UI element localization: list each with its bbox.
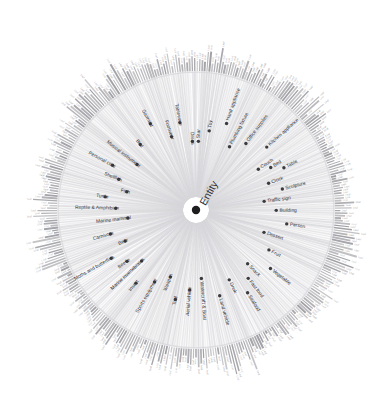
category-node-dot xyxy=(228,278,231,281)
category-node-dot xyxy=(275,209,278,212)
leaf-label: Leaf xyxy=(35,212,40,215)
leaf-label: Leaf xyxy=(190,50,193,55)
category-node-label: Building xyxy=(279,208,297,213)
ring-bar xyxy=(335,220,343,221)
ring-bar xyxy=(189,59,190,72)
category-node-label: Dress xyxy=(190,132,196,146)
category-node-dot xyxy=(197,140,200,143)
leaf-label: Leaf xyxy=(176,51,180,56)
leaf-label: Leaf xyxy=(343,199,348,202)
ring-bar xyxy=(42,197,58,198)
category-node-dot xyxy=(257,168,260,171)
category-node-dot xyxy=(285,222,288,225)
leaf-label: Leaf xyxy=(181,357,184,362)
root-node-dot xyxy=(192,206,200,214)
leaf-label: Leaf xyxy=(344,220,349,223)
ring-bar xyxy=(51,225,58,226)
leaf-label: Leaf xyxy=(41,207,46,210)
leaf-label: Leaf xyxy=(342,209,347,212)
leaf-label: Leaf xyxy=(197,369,200,374)
category-node-dot xyxy=(267,248,270,251)
leaf-label: Leaf xyxy=(40,217,45,220)
category-node: Reptile & Amphibian xyxy=(75,205,119,211)
leaf-label: Leaf xyxy=(27,198,32,201)
ring-bar xyxy=(50,190,58,191)
category-node-dot xyxy=(247,277,250,280)
leaf-label: Leaf xyxy=(43,204,48,207)
ring-bar xyxy=(44,220,57,221)
ring-bar xyxy=(333,185,340,186)
ring-bar xyxy=(218,347,219,354)
category-node-label: Star xyxy=(196,129,201,139)
leaf-label: Leaf xyxy=(205,370,208,375)
leaf-label: Leaf xyxy=(356,201,361,204)
ring-bar xyxy=(33,215,57,216)
category-node-dot xyxy=(265,145,268,148)
category-node-dot xyxy=(225,122,228,125)
leaf-label: Leaf xyxy=(31,209,36,212)
ring-bar xyxy=(334,193,341,194)
category-node-dot xyxy=(281,187,284,190)
leaf-label: Leaf xyxy=(207,359,210,364)
ring-bar xyxy=(44,223,58,224)
leaf-label: Leaf xyxy=(187,52,190,57)
ring-bar xyxy=(332,178,337,179)
leaf-label: Leaf xyxy=(182,51,185,56)
category-node-label: Reptile & Amphibian xyxy=(75,205,119,211)
radial-dendrogram-figure: LeafLeafLeafLeafLeafLeafLeafLeafLeafLeaf… xyxy=(0,0,389,407)
ring-bar xyxy=(208,348,209,357)
category-node: Dress xyxy=(190,132,196,146)
leaf-label: Leaf xyxy=(189,366,192,371)
leaf-label: Leaf xyxy=(193,52,196,57)
dendrogram-canvas: LeafLeafLeafLeafLeafLeafLeafLeafLeafLeaf… xyxy=(0,0,389,407)
leaf-label: Leaf xyxy=(44,225,49,229)
ring-bar xyxy=(335,202,354,203)
category-node-dot xyxy=(246,291,249,294)
category-node-dot xyxy=(269,267,272,270)
category-node-dot xyxy=(262,231,265,234)
category-node-dot xyxy=(269,166,272,169)
ring-bar xyxy=(210,348,211,356)
ring-bar xyxy=(331,176,336,177)
leaf-label: Leaf xyxy=(202,360,205,365)
leaf-label: Leaf xyxy=(353,229,359,233)
leaf-label: Leaf xyxy=(27,215,32,218)
category-node-dot xyxy=(218,294,221,297)
category-node-dot xyxy=(208,129,211,132)
category-node-dot xyxy=(267,182,270,185)
ring-bar xyxy=(212,64,213,72)
leaf-label: Leaf xyxy=(175,368,179,373)
leaf-label: Leaf xyxy=(192,360,195,365)
category-node-dot xyxy=(282,166,285,169)
ring-bar xyxy=(54,232,59,233)
category-node-dot xyxy=(228,145,231,148)
ring-bar xyxy=(188,349,189,363)
leaf-label: Leaf xyxy=(210,45,213,50)
ring-bar xyxy=(46,218,57,219)
leaf-label: Leaf xyxy=(353,207,358,210)
leaf-label: Leaf xyxy=(178,364,182,369)
category-node-dot xyxy=(262,200,265,203)
ring-bar xyxy=(182,64,183,71)
ring-bar xyxy=(186,349,187,356)
leaf-label: Leaf xyxy=(41,201,46,204)
ring-bar xyxy=(183,348,184,355)
leaf-label: Leaf xyxy=(186,364,189,369)
category-node-dot xyxy=(244,142,247,145)
category-node-dot xyxy=(200,277,203,280)
leaf-label: Leaf xyxy=(38,228,44,232)
leaf-label: Leaf xyxy=(180,58,183,63)
leaf-label: Leaf xyxy=(38,220,43,223)
ring-bar xyxy=(204,62,205,71)
leaf-label: Leaf xyxy=(204,55,207,60)
category-node-dot xyxy=(246,262,249,265)
ring-bar xyxy=(201,349,202,364)
leaf-label: Leaf xyxy=(346,204,351,207)
ring-bar xyxy=(187,62,188,71)
